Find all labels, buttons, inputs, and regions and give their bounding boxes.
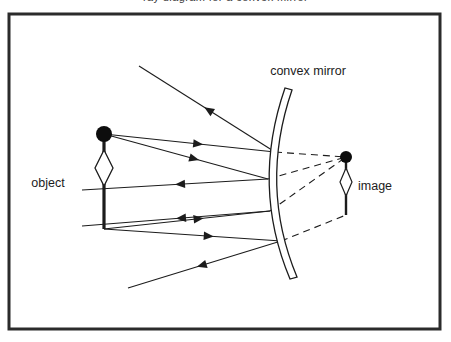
image-head-dot: [340, 151, 352, 163]
convex-mirror-ray-diagram: convex mirror object image: [0, 0, 451, 342]
figure-canvas: ray diagram for a convex mirror: [0, 0, 451, 342]
label-image: image: [358, 179, 392, 193]
label-convex-mirror: convex mirror: [270, 64, 346, 78]
clipped-caption: ray diagram for a convex mirror: [0, 0, 451, 3]
figure-frame: [9, 14, 440, 329]
object-head-dot: [96, 126, 112, 142]
label-object: object: [31, 176, 65, 190]
